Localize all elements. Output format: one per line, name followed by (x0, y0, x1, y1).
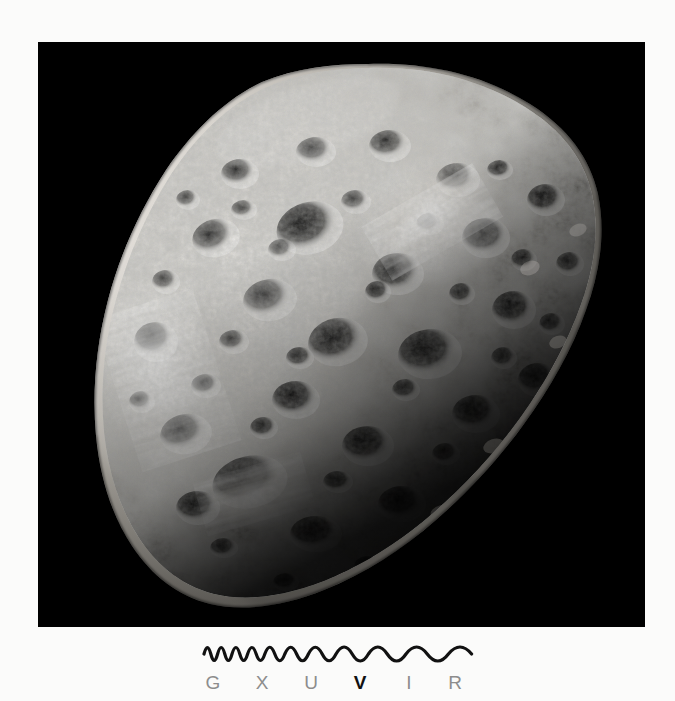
page-root: G X U V I R (0, 0, 675, 701)
spectrum-wave-icon (190, 634, 490, 674)
spectrum-label-xray: X (251, 672, 273, 694)
electromagnetic-spectrum-key: G X U V I R (190, 634, 490, 696)
spectrum-label-gamma: G (202, 672, 224, 694)
hyperion-render (38, 42, 645, 627)
spectrum-label-infrared: I (398, 672, 420, 694)
spectrum-label-ultraviolet: U (300, 672, 322, 694)
spectrum-label-visible: V (349, 672, 371, 694)
spectrum-label-radio: R (444, 672, 466, 694)
hyperion-photograph (38, 42, 645, 627)
spectrum-labels: G X U V I R (190, 672, 490, 696)
spectrum-wave (190, 634, 490, 674)
